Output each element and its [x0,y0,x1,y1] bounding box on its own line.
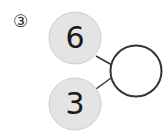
answer-circle[interactable] [111,46,162,97]
top-part-value: 6 [49,23,101,53]
bottom-part-value: 3 [49,89,101,119]
connector-line-top [96,56,112,65]
connector-line-bottom [96,78,111,89]
